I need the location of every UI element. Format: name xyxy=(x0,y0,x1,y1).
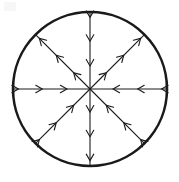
ray-north xyxy=(86,11,94,89)
ray-east xyxy=(90,85,168,93)
ray-northwest-line xyxy=(36,35,90,89)
ray-northeast xyxy=(90,35,144,89)
vector-field-canvas xyxy=(0,0,179,182)
vector-field-diagram xyxy=(0,0,179,182)
ray-southeast-line xyxy=(90,89,144,143)
ray-southeast xyxy=(90,89,148,147)
ray-northwest xyxy=(36,35,90,89)
ray-northeast-line xyxy=(90,35,144,89)
scan-artifact xyxy=(4,2,16,11)
ray-southwest-line xyxy=(36,89,90,143)
ray-south xyxy=(86,89,94,166)
ray-southwest xyxy=(32,89,90,147)
ray-west xyxy=(12,85,90,93)
